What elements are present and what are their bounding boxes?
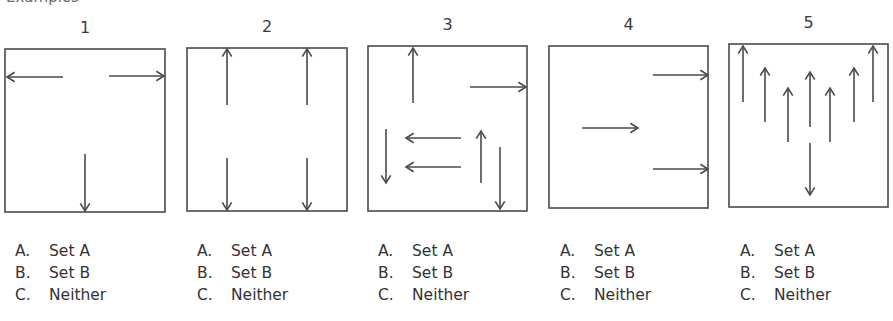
option-letter: A. — [15, 240, 49, 262]
option-label: Neither — [412, 284, 469, 306]
arrow-icon — [406, 162, 461, 171]
arrow-icon — [381, 129, 390, 183]
option-label: Neither — [231, 284, 288, 306]
arrow-icon — [825, 88, 834, 142]
panel-frame — [729, 44, 888, 207]
panel-frame — [549, 46, 708, 208]
option-letter: B. — [740, 262, 774, 284]
heading-fragment: Examples — [6, 0, 79, 6]
panel-diagram-1 — [3, 47, 167, 214]
panel-number-4: 4 — [609, 15, 649, 34]
answer-option[interactable]: B.Set B — [378, 262, 469, 284]
arrow-icon — [109, 71, 164, 80]
arrow-icon — [868, 46, 877, 102]
option-letter: A. — [740, 240, 774, 262]
arrow-icon — [80, 154, 89, 211]
answer-options-4: A.Set AB.Set BC.Neither — [560, 240, 651, 306]
arrow-icon — [783, 88, 792, 142]
arrow-icon — [653, 164, 708, 173]
option-label: Set B — [231, 262, 272, 284]
arrow-icon — [7, 72, 63, 81]
panel-number-1: 1 — [65, 18, 105, 37]
answer-option[interactable]: C.Neither — [560, 284, 651, 306]
arrow-icon — [476, 131, 485, 183]
option-label: Set B — [49, 262, 90, 284]
arrow-icon — [653, 70, 708, 79]
option-label: Neither — [49, 284, 106, 306]
arrow-icon — [805, 72, 814, 127]
option-label: Set A — [49, 240, 90, 262]
answer-option[interactable]: A.Set A — [560, 240, 651, 262]
arrow-icon — [849, 68, 858, 122]
answer-options-5: A.Set AB.Set BC.Neither — [740, 240, 831, 306]
option-letter: A. — [378, 240, 412, 262]
answer-option[interactable]: A.Set A — [378, 240, 469, 262]
option-label: Set A — [231, 240, 272, 262]
answer-option[interactable]: C.Neither — [197, 284, 288, 306]
answer-options-1: A.Set AB.Set BC.Neither — [15, 240, 106, 306]
option-letter: C. — [197, 284, 231, 306]
panel-number-5: 5 — [789, 13, 829, 32]
arrow-icon — [222, 158, 231, 210]
arrow-icon — [760, 68, 769, 122]
arrow-icon — [406, 133, 461, 142]
arrow-icon — [470, 82, 526, 91]
answer-option[interactable]: B.Set B — [560, 262, 651, 284]
option-label: Set B — [594, 262, 635, 284]
option-letter: C. — [378, 284, 412, 306]
option-letter: B. — [15, 262, 49, 284]
answer-option[interactable]: A.Set A — [197, 240, 288, 262]
option-label: Set A — [774, 240, 815, 262]
option-label: Set B — [774, 262, 815, 284]
panel-diagram-2 — [185, 46, 349, 213]
answer-option[interactable]: C.Neither — [15, 284, 106, 306]
option-label: Neither — [594, 284, 651, 306]
panel-number-3: 3 — [428, 15, 468, 34]
panel-frame — [187, 48, 347, 211]
arrow-icon — [805, 143, 814, 195]
option-label: Set A — [594, 240, 635, 262]
option-letter: C. — [15, 284, 49, 306]
arrow-icon — [738, 46, 747, 102]
option-letter: C. — [740, 284, 774, 306]
option-label: Set B — [412, 262, 453, 284]
option-letter: B. — [560, 262, 594, 284]
panel-diagram-5 — [727, 42, 890, 209]
answer-option[interactable]: C.Neither — [740, 284, 831, 306]
arrow-icon — [582, 123, 638, 132]
option-label: Neither — [774, 284, 831, 306]
arrow-icon — [408, 48, 417, 103]
arrow-icon — [302, 158, 311, 210]
option-letter: A. — [560, 240, 594, 262]
panel-number-2: 2 — [247, 17, 287, 36]
option-letter: B. — [197, 262, 231, 284]
option-letter: C. — [560, 284, 594, 306]
option-letter: B. — [378, 262, 412, 284]
arrow-icon — [222, 49, 231, 105]
answer-option[interactable]: B.Set B — [740, 262, 831, 284]
arrow-icon — [495, 147, 504, 209]
answer-option[interactable]: B.Set B — [197, 262, 288, 284]
answer-options-3: A.Set AB.Set BC.Neither — [378, 240, 469, 306]
panel-diagram-4 — [547, 44, 710, 210]
answer-option[interactable]: A.Set A — [15, 240, 106, 262]
panel-frame — [368, 46, 527, 211]
answer-option[interactable]: A.Set A — [740, 240, 831, 262]
answer-options-2: A.Set AB.Set BC.Neither — [197, 240, 288, 306]
arrow-icon — [302, 49, 311, 105]
answer-option[interactable]: C.Neither — [378, 284, 469, 306]
option-letter: A. — [197, 240, 231, 262]
answer-option[interactable]: B.Set B — [15, 262, 106, 284]
panel-diagram-3 — [366, 44, 529, 213]
option-label: Set A — [412, 240, 453, 262]
